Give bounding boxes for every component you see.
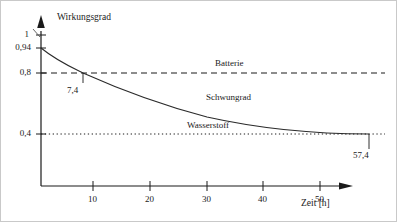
x-axis-arrow bbox=[339, 182, 353, 189]
x-tick-label-30: 30 bbox=[202, 195, 211, 204]
annotation-label-74: 7,4 bbox=[67, 86, 78, 95]
annotation-label-574: 57,4 bbox=[353, 151, 369, 160]
series-label-schwungrad: Schwungrad bbox=[206, 93, 251, 102]
y-axis-arrow bbox=[37, 15, 45, 28]
y-tick-label-1: 1 bbox=[9, 30, 29, 39]
x-tick-label-40: 40 bbox=[258, 195, 267, 204]
y-tick-label-04: 0,4 bbox=[3, 129, 31, 138]
x-tick-label-50: 50 bbox=[315, 195, 324, 204]
y-label-1-leader bbox=[33, 29, 40, 37]
y-tick-label-08: 0,8 bbox=[3, 68, 31, 77]
series-label-wasserstoff: Wasserstoff bbox=[187, 121, 229, 130]
x-tick-label-10: 10 bbox=[88, 195, 97, 204]
x-tick-label-20: 20 bbox=[145, 195, 154, 204]
chart-figure: Wirkungsgrad Zeit [h] 1 0,94 0,8 0,4 10 … bbox=[0, 0, 397, 222]
y-axis-title: Wirkungsgrad bbox=[57, 13, 111, 23]
series-label-batterie: Batterie bbox=[215, 59, 244, 68]
y-tick-label-094: 0,94 bbox=[3, 43, 31, 52]
chart-plot-area bbox=[1, 1, 397, 222]
